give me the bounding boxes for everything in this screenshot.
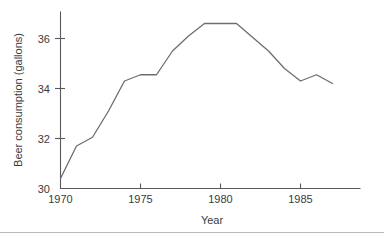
x-axis-ticks bbox=[141, 184, 301, 189]
chart-figure: 36 34 32 30 1970 1975 1980 1985 Year Bee… bbox=[0, 0, 384, 239]
x-tick-labels: 1970 1975 1980 1985 bbox=[48, 193, 312, 205]
x-tick-label-1975: 1975 bbox=[128, 193, 152, 205]
x-axis-title: Year bbox=[201, 214, 224, 226]
x-tick-label-1985: 1985 bbox=[288, 193, 312, 205]
chart-axes bbox=[61, 12, 361, 189]
y-tick-label-36: 36 bbox=[38, 33, 50, 45]
x-tick-label-1970: 1970 bbox=[48, 193, 72, 205]
line-chart: 36 34 32 30 1970 1975 1980 1985 Year Bee… bbox=[0, 0, 384, 239]
y-axis-title: Beer consumption (gallons) bbox=[12, 33, 24, 167]
chart-page: 36 34 32 30 1970 1975 1980 1985 Year Bee… bbox=[0, 0, 384, 239]
y-tick-label-34: 34 bbox=[38, 83, 50, 95]
y-tick-labels: 36 34 32 30 bbox=[38, 33, 50, 195]
x-tick-label-1980: 1980 bbox=[208, 193, 232, 205]
data-series-line bbox=[61, 24, 333, 179]
y-tick-label-32: 32 bbox=[38, 133, 50, 145]
